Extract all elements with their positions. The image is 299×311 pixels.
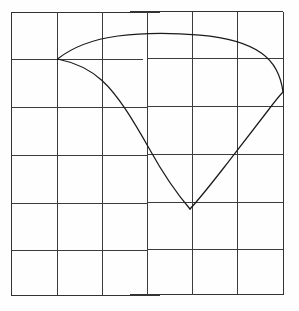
grid-curve-plot (0, 0, 299, 311)
curve-upper-arc (58, 34, 284, 92)
grid-layer (12, 11, 284, 295)
figure-caption (0, 297, 299, 311)
grid-line-horizontal-bottom (12, 295, 284, 296)
curve-lower-branch (58, 59, 191, 209)
figure-root (0, 0, 299, 311)
curve-rising-branch (190, 92, 283, 209)
curve-layer (58, 34, 284, 209)
